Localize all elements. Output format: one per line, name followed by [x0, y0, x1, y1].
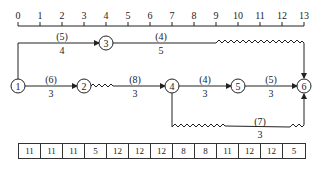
resource-cell: 8 — [173, 144, 195, 158]
resource-cell: 5 — [85, 144, 107, 158]
resource-cell: 8 — [195, 144, 217, 158]
resource-cell: 12 — [129, 144, 151, 158]
tick-label: 0 — [16, 10, 21, 21]
activity-duration: 3 — [203, 88, 208, 99]
tick-label: 6 — [148, 10, 153, 21]
resource-cell: 5 — [283, 144, 305, 158]
node-1: 1 — [11, 79, 25, 93]
resource-cell: 12 — [261, 144, 283, 158]
tick-label: 4 — [104, 10, 109, 21]
svg-text:6: 6 — [302, 81, 307, 92]
resource-cell: 11 — [19, 144, 41, 158]
activity-duration: 3 — [133, 88, 138, 99]
tick-label: 2 — [60, 10, 65, 21]
activity-4-6 — [172, 93, 304, 127]
tick-label: 5 — [126, 10, 131, 21]
resource-cell: 11 — [63, 144, 85, 158]
activity-duration: 3 — [49, 88, 54, 99]
activity-resource: (4) — [155, 31, 167, 43]
free-float-wave — [216, 40, 304, 43]
tick-label: 1 — [38, 10, 43, 21]
tick-label: 10 — [233, 10, 243, 21]
tick-label: 9 — [214, 10, 219, 21]
activity-1-3 — [18, 43, 99, 80]
activity-resource: (6) — [45, 74, 57, 86]
tick-label: 7 — [170, 10, 175, 21]
tick-label: 3 — [82, 10, 87, 21]
svg-text:5: 5 — [236, 81, 241, 92]
activity-2-4 — [91, 84, 165, 87]
node-3: 3 — [99, 36, 113, 50]
node-4: 4 — [165, 79, 179, 93]
tick-label: 12 — [277, 10, 287, 21]
activity-resource: (5) — [56, 31, 68, 43]
tick-label: 11 — [255, 10, 265, 21]
activity-resource: (4) — [199, 74, 211, 86]
tick-label: 8 — [192, 10, 197, 21]
resource-cell: 11 — [41, 144, 63, 158]
activity-resource: (7) — [254, 116, 266, 128]
node-5: 5 — [231, 79, 245, 93]
activity-duration: 4 — [60, 45, 65, 56]
svg-text:3: 3 — [104, 38, 109, 49]
resource-cell: 12 — [107, 144, 129, 158]
resource-cell: 11 — [217, 144, 239, 158]
activity-resource: (8) — [129, 74, 141, 86]
node-2: 2 — [77, 79, 91, 93]
resource-cell: 12 — [239, 144, 261, 158]
activity-duration: 3 — [269, 88, 274, 99]
activity-duration: 3 — [258, 129, 263, 140]
tick-label: 13 — [299, 10, 309, 21]
svg-text:2: 2 — [82, 81, 87, 92]
resource-table: 11 11 11 5 12 12 12 8 8 11 12 12 5 — [18, 143, 306, 159]
svg-text:4: 4 — [170, 81, 175, 92]
node-6: 6 — [297, 79, 311, 93]
time-scale: 0 1 2 3 4 5 6 7 8 9 10 11 12 13 — [16, 10, 310, 26]
svg-text:1: 1 — [16, 81, 21, 92]
activity-duration: 5 — [159, 45, 164, 56]
resource-cell: 12 — [151, 144, 173, 158]
activity-resource: (5) — [265, 74, 277, 86]
